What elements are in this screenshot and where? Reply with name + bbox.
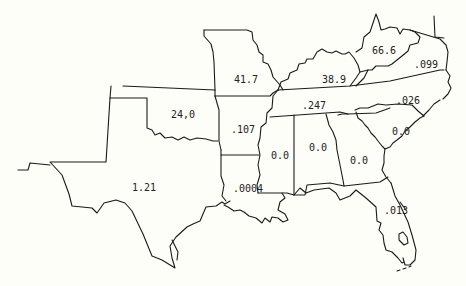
kansas-oklahoma-border	[123, 86, 215, 96]
louisiana-value: .0004	[233, 184, 263, 194]
tennessee-south-border	[270, 108, 390, 117]
west-virginia-border	[356, 14, 420, 72]
oklahoma-border	[110, 86, 218, 141]
tennessee-border	[278, 70, 444, 90]
georgia-value: 0.0	[350, 156, 368, 166]
outer-banks	[423, 100, 440, 116]
florida-lake-okeechobee	[399, 232, 408, 245]
texas-east-border	[221, 150, 226, 201]
mississippi-river-border	[257, 90, 278, 193]
kentucky-border	[278, 49, 360, 90]
oklahoma-value: 24,0	[171, 110, 195, 120]
southeast-us-map	[0, 0, 466, 286]
missouri-west-border	[204, 30, 215, 90]
arkansas-value: .107	[231, 125, 255, 135]
tennessee-value: .247	[302, 101, 326, 111]
florida-value: .013	[384, 206, 408, 216]
oklahoma-east-border	[215, 96, 221, 150]
missouri-value: 41.7	[234, 75, 258, 85]
florida-keys	[397, 266, 411, 271]
texas-value: 1.21	[132, 183, 156, 193]
delaware-lines	[434, 16, 444, 38]
virginia-value: .099	[414, 60, 438, 70]
nc-georgia-border	[338, 114, 348, 115]
louisiana-border	[224, 193, 288, 223]
florida-border	[306, 183, 416, 265]
texas-west-tail	[18, 163, 50, 170]
kentucky-value: 38.9	[322, 75, 346, 85]
south-carolina-border	[356, 112, 424, 149]
mississippi-value: 0.0	[271, 151, 289, 161]
georgia-east-border	[382, 149, 391, 183]
west-virginia-value: 66.6	[372, 46, 396, 56]
north-carolina-value: .026	[396, 96, 420, 106]
texas-coast-islands	[172, 240, 178, 260]
south-carolina-value: 0.0	[392, 127, 410, 137]
missouri-arkansas-border	[215, 90, 278, 96]
alabama-value: 0.0	[309, 143, 327, 153]
atlantic-coast-va	[443, 70, 451, 99]
alabama-georgia-border	[326, 114, 344, 186]
